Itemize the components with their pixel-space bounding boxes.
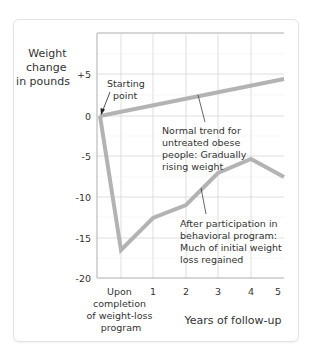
arrow-line	[103, 92, 110, 110]
svg-text:1: 1	[150, 286, 156, 297]
svg-text:-10: -10	[75, 192, 91, 203]
svg-text:0: 0	[85, 111, 91, 122]
svg-text:4: 4	[248, 286, 254, 297]
y-axis-title: Weight change in pounds	[16, 47, 70, 88]
svg-text:5: 5	[275, 286, 281, 297]
weight-change-chart: Weight change in pounds +5 0 -5 -10 -15 …	[0, 0, 310, 356]
svg-text:-15: -15	[75, 233, 91, 244]
svg-text:3: 3	[215, 286, 221, 297]
svg-text:-20: -20	[75, 273, 91, 284]
y-tick-labels: +5 0 -5 -10 -15 -20	[75, 69, 91, 284]
x-axis-title: Years of follow-up	[184, 314, 282, 327]
svg-text:Upon completion of: Upon completion of weight-loss program	[86, 286, 155, 333]
svg-text:2: 2	[183, 286, 189, 297]
svg-text:+5: +5	[77, 69, 91, 80]
normal-trend-annotation: Normal trend for untreated obese people:…	[162, 95, 249, 172]
svg-text:Starting point: Starting point	[107, 78, 148, 101]
svg-text:-5: -5	[82, 151, 91, 162]
after-program-annotation: After participation in behavioral progra…	[180, 188, 285, 265]
